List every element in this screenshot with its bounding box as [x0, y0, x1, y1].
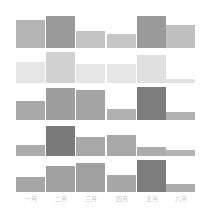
bar-row5-6 [166, 184, 195, 192]
x-axis-labels: 一月 二月 三月 四月 五月 六月 [16, 194, 196, 206]
bar-row2-3 [76, 64, 105, 83]
x-label-jan: 一月 [16, 194, 45, 204]
bar-row5-1 [16, 177, 45, 192]
bar-row2-4 [107, 64, 136, 83]
bar-row2-2 [46, 52, 75, 83]
bar-row4-1 [16, 145, 45, 156]
bar-row5-4 [107, 175, 136, 192]
bar-row4-3 [76, 137, 105, 156]
bar-row4-5 [137, 147, 166, 156]
bar-row5-5 [137, 160, 166, 192]
x-label-feb: 二月 [46, 194, 75, 204]
bar-row2-6 [166, 79, 195, 83]
bar-row3-2 [46, 88, 75, 120]
bar-row1-5 [137, 16, 166, 48]
bar-row4-2 [46, 126, 75, 156]
bar-row4-6 [166, 150, 195, 156]
x-label-apr: 四月 [107, 194, 136, 204]
bar-row1-1 [16, 20, 45, 48]
bar-row1-6 [166, 25, 195, 48]
bar-row1-2 [46, 16, 75, 48]
bar-row5-2 [46, 166, 75, 192]
x-label-mar: 三月 [76, 194, 105, 204]
stacked-bar-chart-grid [0, 0, 208, 216]
bar-row3-4 [107, 109, 136, 120]
bar-row3-3 [76, 90, 105, 120]
x-label-jun: 六月 [166, 194, 195, 204]
bar-row5-3 [76, 163, 105, 192]
bar-row3-1 [16, 101, 45, 120]
bar-row1-3 [76, 31, 105, 48]
x-label-may: 五月 [137, 194, 166, 204]
bar-row3-5 [137, 87, 166, 120]
bar-row2-5 [137, 55, 166, 83]
bar-row3-6 [166, 112, 195, 120]
bar-row2-1 [16, 62, 45, 83]
bar-row4-4 [107, 135, 136, 156]
bar-row1-4 [107, 34, 136, 48]
